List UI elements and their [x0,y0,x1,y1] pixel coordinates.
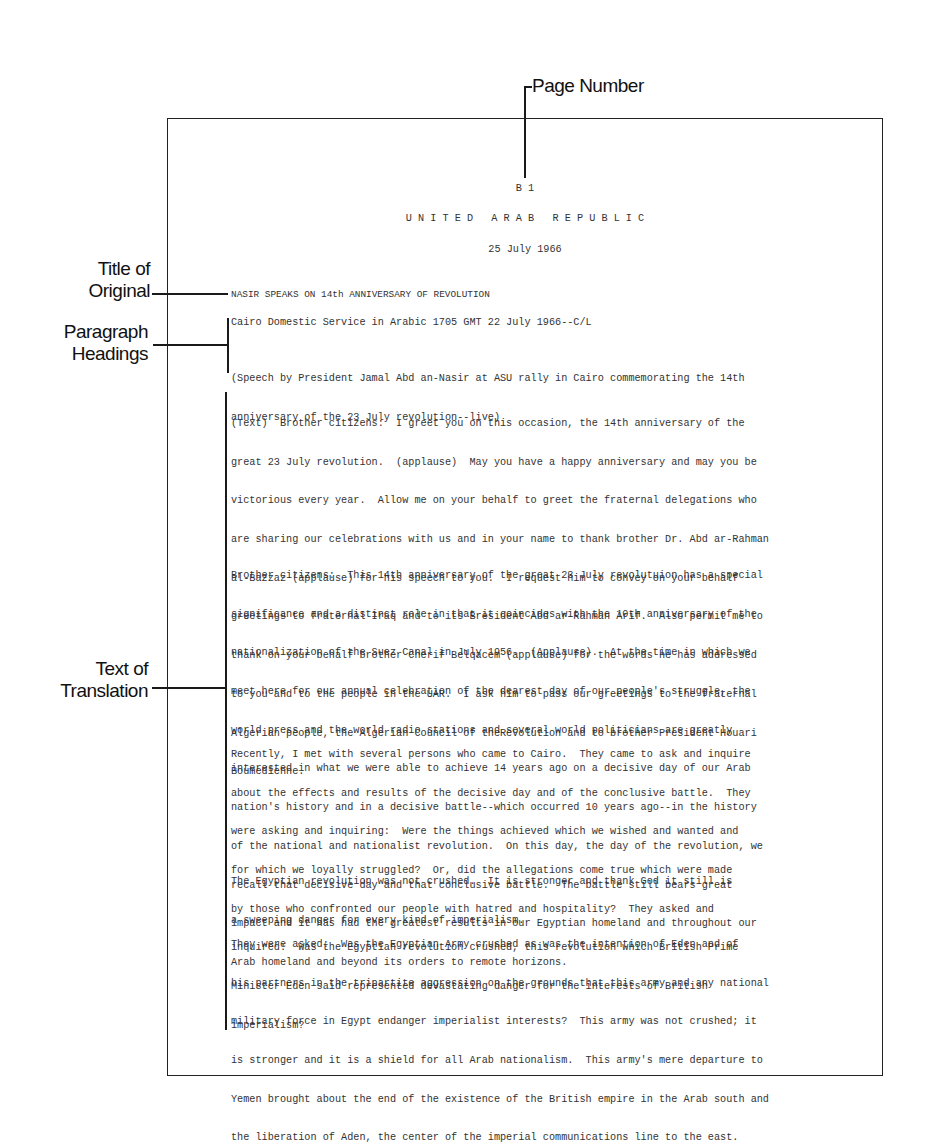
paragraph-headings-bracket [227,318,229,373]
paragraph-line: nationalization of the Suez Canal in Jul… [231,647,861,660]
paragraph-line: the liberation of Aden, the center of th… [231,1132,861,1145]
annotation-line-1: Title of [40,258,150,280]
annotation-line-1: Text of [20,658,148,680]
paragraph-line: Yemen brought about the end of the exist… [231,1094,861,1107]
document-title: NASIR SPEAKS ON 14th ANNIVERSARY OF REVO… [231,289,490,302]
annotation-line-2: Original [40,280,150,302]
annotation-line-1: Paragraph [30,321,148,343]
translation-paragraph-5: They were asked: Was the Egyptian Army c… [231,913,861,1146]
paragraph-line: about the effects and results of the dec… [231,788,861,801]
paragraph-line: were asking and inquiring: Were the thin… [231,826,861,839]
text-of-translation-annotation: Text of Translation [20,658,148,702]
paragraph-line: They were asked: Was the Egyptian Army c… [231,939,861,952]
page-number-annotation: Page Number [532,75,644,97]
paragraph-headings-annotation: Paragraph Headings [30,321,148,365]
annotation-line-2: Translation [20,680,148,702]
paragraph-line: Recently, I met with several persons who… [231,749,861,762]
paragraph-line: meet here for our annual celebration of … [231,686,861,699]
paragraph-line: significance and a distinct role in that… [231,609,861,622]
paragraph-headings-leader [153,344,227,346]
annotation-line-2: Headings [30,343,148,365]
paragraph-line: great 23 July revolution. (applause) May… [231,457,861,470]
document-date: 25 July 1966 [167,244,883,257]
paragraph-line: (Text) Brother citizens: I greet you on … [231,418,861,431]
paragraph-line: The Egyptian revolution was not crushed.… [231,876,861,889]
paragraph-line: his partners in the tripartite aggressio… [231,978,861,991]
heading-source-line: Cairo Domestic Service in Arabic 1705 GM… [231,317,592,330]
paragraph-line: is stronger and it is a shield for all A… [231,1055,861,1068]
title-of-original-leader [152,293,228,295]
text-of-translation-leader [152,687,227,689]
document-country-heading: U N I T E D A R A B R E P U B L I C [167,213,883,226]
title-of-original-annotation: Title of Original [40,258,150,302]
text-of-translation-bracket [225,392,227,1030]
heading-note-line: (Speech by President Jamal Abd an-Nasir … [231,373,861,386]
paragraph-line: victorious every year. Allow me on your … [231,495,861,508]
paragraph-line: Brother citizens: This 14th anniversary … [231,570,861,583]
paragraph-line: military force in Egypt endanger imperia… [231,1016,861,1029]
document-page-number: B 1 [167,183,883,196]
